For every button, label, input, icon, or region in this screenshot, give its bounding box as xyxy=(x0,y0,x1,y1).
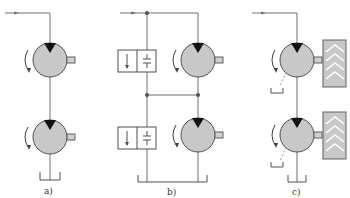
panel-label: b) xyxy=(167,187,176,197)
wheel-icon xyxy=(323,40,346,87)
hydraulic-motor-icon xyxy=(173,118,223,152)
panel-a: a) xyxy=(5,12,75,197)
panel-b: b) xyxy=(118,11,223,197)
inlet-line xyxy=(120,12,198,15)
panel-label: c) xyxy=(292,187,301,197)
valve-icon xyxy=(118,50,156,72)
junction-dot xyxy=(145,93,149,97)
drain-line xyxy=(280,147,286,161)
tank-icon xyxy=(138,175,207,182)
hydraulic-motor-icon xyxy=(25,43,75,77)
hydraulic-motor-icon xyxy=(25,120,75,154)
junction-dot xyxy=(145,11,149,15)
drain-line xyxy=(280,72,286,86)
junction-dot xyxy=(196,93,200,97)
panel-label: a) xyxy=(44,186,53,196)
wheel-icon xyxy=(323,112,346,159)
hydraulic-motor-icon xyxy=(173,43,223,77)
inlet-line xyxy=(252,12,297,15)
hydraulic-diagram: a) b) c) xyxy=(0,0,350,198)
hydraulic-motor-icon xyxy=(272,118,322,152)
panel-c: c) xyxy=(252,12,346,198)
hydraulic-motor-icon xyxy=(272,43,322,77)
drain-tank-icon xyxy=(271,162,283,167)
inlet-line xyxy=(5,12,50,15)
valve-icon xyxy=(118,127,156,149)
drain-tank-icon xyxy=(271,88,283,93)
